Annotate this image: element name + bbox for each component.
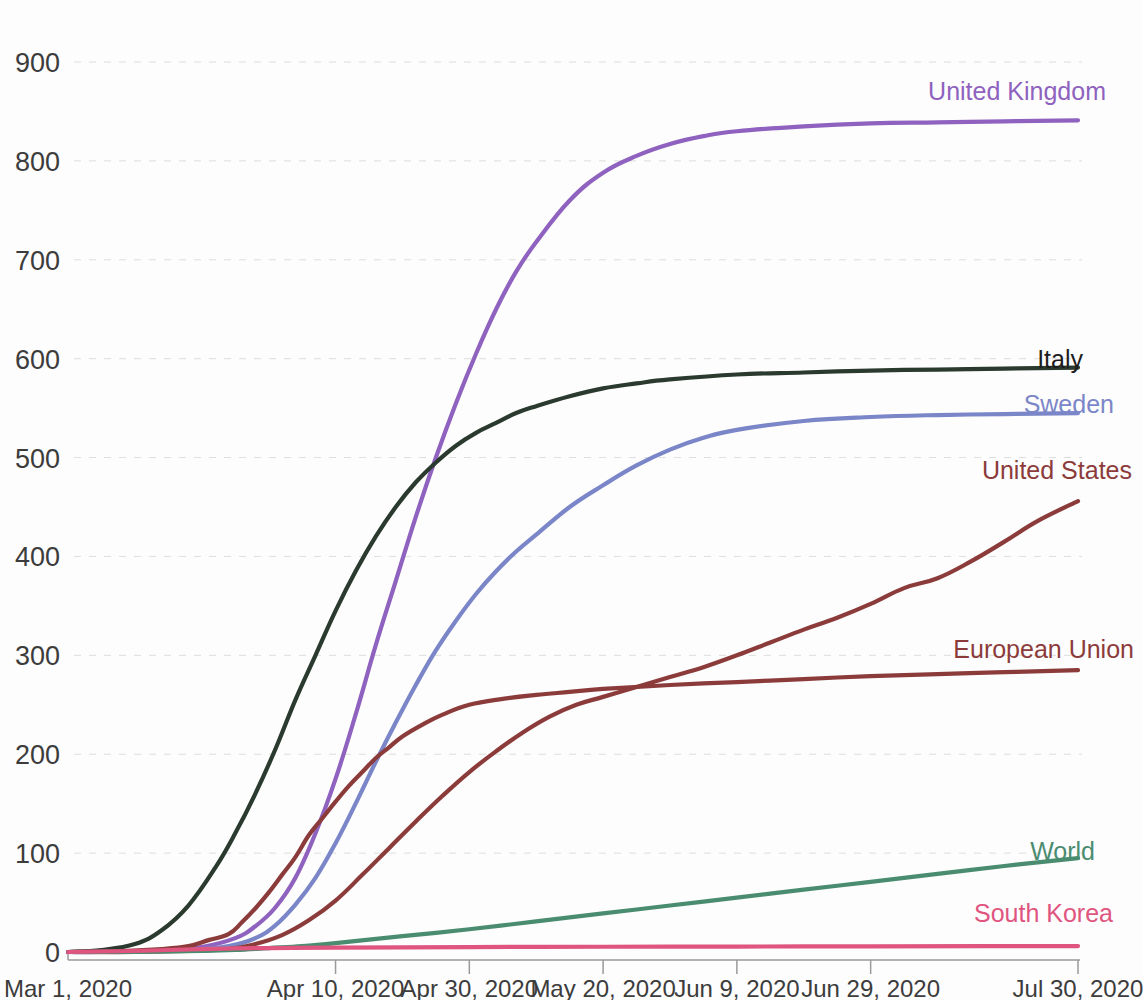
x-tick-label: Apr 10, 2020: [267, 975, 404, 1000]
x-tick-label: Jun 29, 2020: [801, 975, 940, 1000]
y-tick-label: 900: [15, 48, 60, 78]
series-line-sweden[interactable]: [68, 413, 1078, 952]
y-tick-label: 600: [15, 345, 60, 375]
series-line-italy[interactable]: [68, 368, 1078, 952]
series-line-united-states[interactable]: [68, 501, 1078, 952]
y-tick-label: 200: [15, 740, 60, 770]
x-tick-label: May 20, 2020: [530, 975, 675, 1000]
series-label-european-union[interactable]: European Union: [953, 635, 1134, 663]
series-label-sweden[interactable]: Sweden: [1024, 390, 1114, 418]
x-tick-label: Mar 1, 2020: [4, 975, 132, 1000]
x-tick-label: Apr 30, 2020: [401, 975, 538, 1000]
y-tick-label: 700: [15, 246, 60, 276]
series-label-united-states[interactable]: United States: [982, 456, 1132, 484]
series-line-european-union[interactable]: [68, 670, 1078, 952]
chart-container: 0100200300400500600700800900 Mar 1, 2020…: [0, 0, 1143, 1000]
data-series-group: [68, 120, 1078, 952]
y-tick-label: 400: [15, 542, 60, 572]
axes-group: [68, 950, 1080, 974]
x-axis-tick-labels: Mar 1, 2020Apr 10, 2020Apr 30, 2020May 2…: [4, 975, 1143, 1000]
line-chart-plot: 0100200300400500600700800900 Mar 1, 2020…: [0, 0, 1143, 1000]
y-axis-tick-labels: 0100200300400500600700800900: [15, 48, 60, 968]
series-label-world[interactable]: World: [1030, 837, 1095, 865]
y-tick-label: 800: [15, 147, 60, 177]
y-tick-label: 100: [15, 839, 60, 869]
y-tick-label: 500: [15, 444, 60, 474]
x-tick-label: Jul 30, 2020: [1013, 975, 1143, 1000]
series-line-united-kingdom[interactable]: [68, 120, 1078, 952]
series-labels-group: United KingdomItalySwedenUnited StatesEu…: [928, 77, 1134, 927]
y-tick-label: 300: [15, 641, 60, 671]
gridlines-group: [74, 62, 1082, 853]
x-tick-label: Jun 9, 2020: [674, 975, 799, 1000]
series-label-united-kingdom[interactable]: United Kingdom: [928, 77, 1106, 105]
y-tick-label: 0: [45, 938, 60, 968]
series-label-south-korea[interactable]: South Korea: [974, 899, 1113, 927]
series-label-italy[interactable]: Italy: [1037, 345, 1083, 373]
